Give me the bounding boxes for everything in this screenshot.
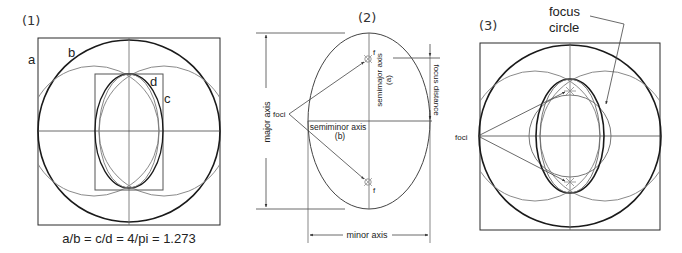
label-b: b — [68, 45, 75, 60]
panel-3-number: (3) — [479, 18, 497, 33]
panel-1-number: (1) — [22, 13, 40, 28]
foci-leader-bottom — [478, 136, 565, 181]
focus-circle-label-line2: circle — [549, 20, 579, 35]
label-d: d — [150, 74, 157, 89]
semimajor-symbol-label: (a) — [384, 75, 393, 85]
foci-leader-top — [289, 62, 364, 114]
panel-2-number: (2) — [358, 10, 376, 25]
semimajor-axis-label: semimajor axis — [375, 53, 384, 106]
focus-circle-label-line1: focus — [549, 4, 581, 19]
label-a: a — [28, 52, 36, 67]
focus-top-marker — [364, 55, 372, 63]
foci-label: foci — [455, 133, 468, 142]
panel-1: (1) a b d c a/b = c/d = 4/pi = 1.273 — [22, 13, 229, 246]
foci-label: foci — [273, 110, 286, 119]
focus-bottom-label: f — [373, 186, 376, 195]
ratio-caption: a/b = c/d = 4/pi = 1.273 — [62, 231, 195, 246]
label-c: c — [164, 91, 171, 106]
focus-bottom-marker — [364, 178, 372, 186]
panel-2: (2) major axis minor axis focus distance — [256, 10, 441, 243]
panel-3: (3) foci focus — [455, 4, 670, 230]
semiminor-symbol-label: (b) — [335, 131, 346, 141]
major-axis-label: major axis — [262, 101, 272, 143]
focus-distance-label: focus distance — [432, 64, 441, 116]
minor-axis-label: minor axis — [346, 230, 388, 240]
foci-leader-top — [478, 92, 565, 136]
ellipse-construction-diagram: (1) a b d c a/b = c/d = 4/pi = 1.273 (2) — [0, 0, 682, 253]
